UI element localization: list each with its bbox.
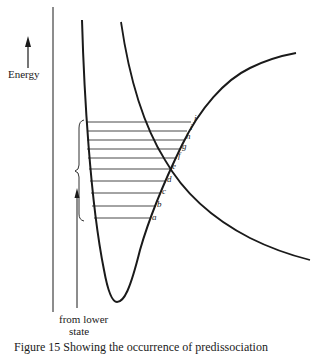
bound-state-curve — [82, 20, 296, 302]
from-lower-label: from lower — [59, 313, 108, 325]
level-label-a: a — [152, 213, 157, 222]
level-label-c: c — [162, 187, 166, 196]
brace-icon — [75, 120, 84, 221]
energy-label: Energy — [8, 68, 40, 80]
level-label-b: b — [157, 200, 162, 209]
level-label-g: g — [182, 142, 187, 151]
level-label-j: j — [194, 114, 197, 123]
state-label: state — [69, 325, 89, 337]
level-label-h: h — [186, 132, 191, 141]
repulsive-state-curve — [121, 22, 310, 260]
level-label-f: f — [178, 151, 181, 160]
level-label-d: d — [167, 175, 172, 184]
figure-caption: Figure 15 Showing the occurrence of pred… — [14, 340, 268, 355]
level-label-e: e — [172, 162, 176, 171]
energy-arrow-icon — [25, 36, 31, 68]
